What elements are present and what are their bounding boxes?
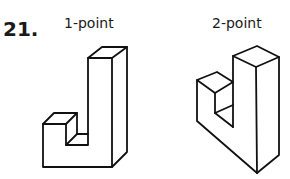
- two-point-perspective-drawing: [0, 0, 290, 179]
